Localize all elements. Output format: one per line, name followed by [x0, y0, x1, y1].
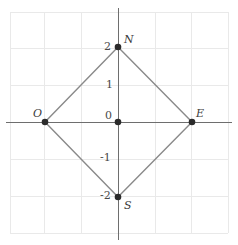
- vertex-label-o: O: [33, 108, 42, 119]
- point-s: [115, 194, 122, 201]
- vertex-label-n: N: [124, 34, 134, 45]
- point-n: [115, 44, 122, 51]
- vertex-label-s: S: [124, 200, 132, 211]
- y-tick-label-neg2: -2: [100, 190, 111, 201]
- coordinate-plane-canvas: [0, 0, 238, 245]
- coordinate-plane-figure: 2 1 0 -1 -2 N E S O: [0, 0, 238, 245]
- y-tick-label-0: 0: [105, 110, 112, 121]
- point-o: [42, 119, 49, 126]
- vertex-label-e: E: [196, 108, 204, 119]
- point-e: [189, 119, 196, 126]
- y-tick-label-2: 2: [104, 41, 111, 52]
- y-tick-label-neg1: -1: [100, 152, 111, 163]
- y-tick-label-1: 1: [106, 79, 113, 90]
- point-origin: [115, 119, 122, 126]
